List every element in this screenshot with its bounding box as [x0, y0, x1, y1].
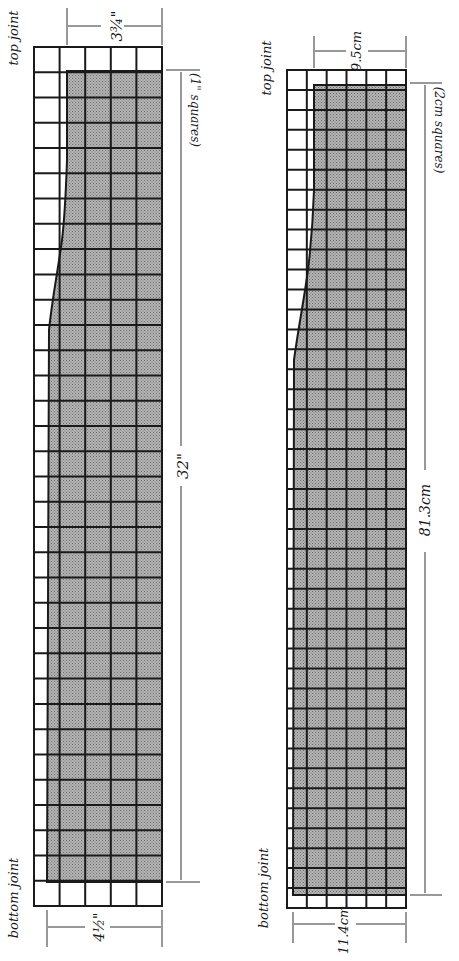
imperial-bottom-joint-label: bottom joint [6, 857, 21, 938]
metric-bottom-joint-label: bottom joint [256, 847, 271, 928]
metric-bottom-width-label: 11.4cm [336, 906, 351, 955]
pattern-drawing: 3¾" 32" (1" squares) 4½" top joint botto… [0, 0, 459, 961]
imperial-top-width-label: 3¾" [108, 11, 126, 42]
metric-length-label: 81.3cm [417, 484, 433, 536]
metric-top-joint-label: top joint [259, 40, 274, 96]
metric-grid-note: (2cm squares) [432, 87, 446, 174]
metric-pattern: 9.5cm 81.3cm (2cm squares) 11.4cm top jo… [256, 31, 446, 954]
imperial-length-label: 32" [174, 453, 192, 479]
imperial-top-joint-label: top joint [6, 10, 21, 66]
imperial-pattern: 3¾" 32" (1" squares) 4½" top joint botto… [6, 8, 202, 947]
metric-top-width-label: 9.5cm [349, 31, 364, 71]
imperial-grid-note: (1" squares) [188, 73, 202, 147]
imperial-bottom-width-label: 4½" [91, 913, 107, 943]
